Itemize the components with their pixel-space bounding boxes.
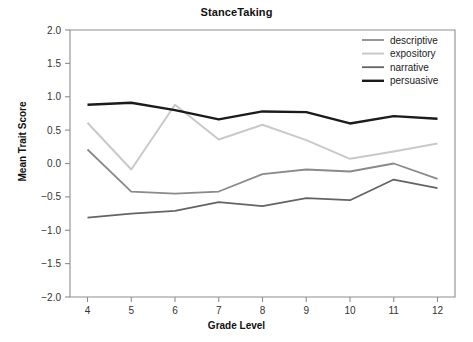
y-tick-label: −1.5 <box>41 258 61 269</box>
y-tick-label: −2.0 <box>41 292 61 303</box>
x-tick-label: 5 <box>128 305 134 316</box>
x-tick-label: 10 <box>344 305 356 316</box>
data-series-group <box>88 103 438 218</box>
y-tick-label: 1.0 <box>47 91 61 102</box>
legend-label-narrative: narrative <box>390 62 429 73</box>
x-tick-label: 4 <box>85 305 91 316</box>
chart-figure: StanceTaking Mean Trait Score Grade Leve… <box>0 0 473 342</box>
plot-area: −2.0−1.5−1.0−0.50.00.51.01.52.0 45678910… <box>0 0 473 342</box>
series-line-persuasive <box>88 103 438 124</box>
y-tick-label: 0.5 <box>47 125 61 136</box>
y-tick-label: −0.5 <box>41 191 61 202</box>
chart-legend: descriptiveexpositorynarrativepersuasive <box>362 35 439 87</box>
x-tick-label: 8 <box>260 305 266 316</box>
series-line-narrative <box>88 180 438 218</box>
x-tick-label: 9 <box>303 305 309 316</box>
y-axis-ticks: −2.0−1.5−1.0−0.50.00.51.01.52.0 <box>41 25 70 303</box>
x-tick-label: 11 <box>389 305 400 316</box>
x-axis-ticks: 456789101112 <box>85 297 444 316</box>
legend-label-persuasive: persuasive <box>390 75 439 86</box>
legend-label-descriptive: descriptive <box>390 35 438 46</box>
y-tick-label: −1.0 <box>41 225 61 236</box>
legend-label-expository: expository <box>390 48 436 59</box>
y-tick-label: 1.5 <box>47 58 61 69</box>
x-tick-label: 7 <box>216 305 222 316</box>
x-tick-label: 12 <box>432 305 444 316</box>
y-tick-label: 2.0 <box>47 25 61 36</box>
series-line-expository <box>88 105 438 170</box>
y-tick-label: 0.0 <box>47 158 61 169</box>
x-tick-label: 6 <box>172 305 178 316</box>
